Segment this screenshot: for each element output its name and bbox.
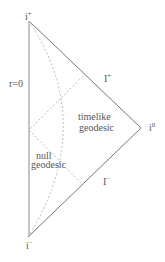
timelike-geodesic-curve [28,21,63,237]
null-geodesic-label: null geodesic [31,150,67,170]
i-zero-label: i0 [149,121,156,133]
i-minus-label: i− [26,239,33,251]
i-plus-label: i+ [25,10,32,22]
penrose-diagram: i+ r=0 I+ timelike geodesic i0 null geod… [0,0,165,262]
timelike-geodesic-label: timelike geodesic [78,111,115,133]
scri-minus-boundary [28,128,141,237]
scri-plus-label: I+ [104,72,111,84]
r-zero-label: r=0 [9,78,23,89]
scri-minus-label: I− [103,175,110,187]
